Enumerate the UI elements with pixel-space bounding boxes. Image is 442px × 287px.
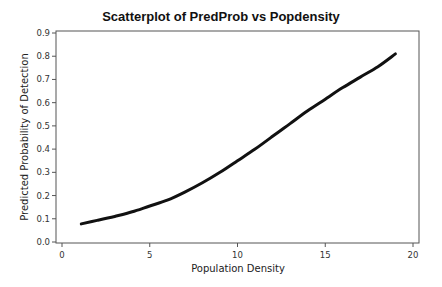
y-tick-label: 0.5 [36, 121, 50, 131]
y-tick-label: 0.4 [36, 144, 50, 154]
x-tick-label: 10 [232, 250, 243, 260]
y-tick-label: 0.8 [36, 51, 50, 61]
x-tick-label: 5 [147, 250, 152, 260]
y-tick-label: 0.3 [36, 167, 50, 177]
x-axis-label: Population Density [191, 263, 285, 274]
x-tick-label: 20 [408, 250, 419, 260]
plot-area [56, 31, 419, 243]
x-tick-label: 15 [320, 250, 331, 260]
y-tick-label: 0.1 [36, 214, 50, 224]
y-tick-label: 0.0 [36, 237, 50, 247]
y-tick-label: 0.9 [36, 28, 50, 38]
x-tick-label: 0 [59, 250, 64, 260]
chart-canvas: 0.00.10.20.30.40.50.60.70.80.9 05101520 … [0, 0, 442, 287]
y-axis-label: Predicted Probability of Detection [19, 53, 30, 221]
y-axis: 0.00.10.20.30.40.50.60.70.80.9 [36, 28, 56, 247]
y-tick-label: 0.7 [36, 74, 50, 84]
y-tick-label: 0.6 [36, 98, 50, 108]
y-tick-label: 0.2 [36, 191, 50, 201]
x-axis: 05101520 [59, 243, 418, 260]
